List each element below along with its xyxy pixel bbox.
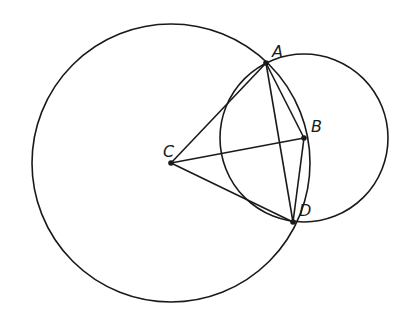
segment-cd — [171, 163, 293, 222]
label-a: A — [271, 42, 283, 61]
point-d — [290, 219, 296, 225]
label-c: C — [163, 142, 175, 161]
label-d: D — [299, 201, 311, 220]
segment-ad — [266, 63, 293, 222]
geometry-diagram: A B C D — [0, 0, 407, 328]
point-c — [168, 160, 174, 166]
point-a — [263, 60, 269, 66]
label-b: B — [311, 117, 322, 136]
point-b — [301, 135, 307, 141]
